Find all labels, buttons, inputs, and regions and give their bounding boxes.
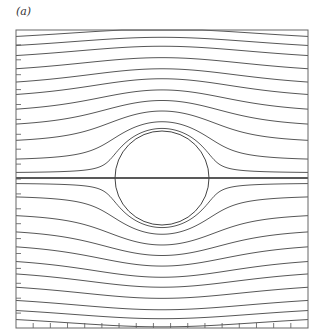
streamline [16,122,308,159]
streamline [16,311,308,319]
streamline [16,90,308,109]
axis-ticks [16,45,291,328]
streamline [16,247,308,266]
streamline [16,274,308,287]
streamline [16,46,308,55]
streamline [16,232,308,256]
streamline [16,320,308,327]
streamline-plot [0,0,323,329]
streamline [16,37,308,45]
streamline [16,30,308,36]
streamline [16,184,308,228]
streamline [16,197,308,234]
streamline [16,101,308,125]
streamline [16,262,308,278]
streamline [16,216,308,245]
streamline [16,111,308,140]
streamline [16,58,308,69]
streamline [16,300,308,309]
streamline [16,69,308,82]
plot-frame [16,30,308,328]
streamline [16,128,308,172]
streamline [16,287,308,298]
streamline [16,79,308,95]
streamlines [16,30,308,327]
